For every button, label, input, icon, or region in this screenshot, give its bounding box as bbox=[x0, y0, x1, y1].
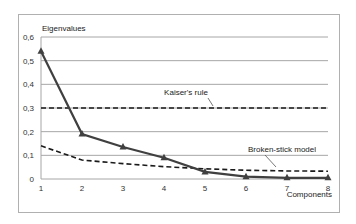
y-tick-label: 0 bbox=[30, 175, 35, 184]
broken-stick-annotation: Broken-stick model bbox=[248, 145, 316, 154]
x-tick-label: 5 bbox=[203, 184, 208, 193]
y-tick-label: 0,5 bbox=[23, 57, 35, 66]
y-tick-label: 0,4 bbox=[23, 80, 35, 89]
y-tick-label: 0,3 bbox=[23, 104, 35, 113]
y-axis-title: Eigenvalues bbox=[42, 24, 86, 33]
chart-frame bbox=[19, 15, 340, 213]
x-tick-label: 1 bbox=[39, 184, 44, 193]
y-tick-label: 0,2 bbox=[23, 128, 35, 137]
x-tick-label: 6 bbox=[244, 184, 249, 193]
x-tick-label: 2 bbox=[80, 184, 85, 193]
eigenvalue-chart: 00,10,20,30,40,50,6 12345678 Eigenvalues… bbox=[0, 0, 356, 224]
x-tick-label: 3 bbox=[121, 184, 126, 193]
x-axis-title: Components bbox=[287, 190, 332, 199]
y-tick-label: 0,1 bbox=[23, 151, 35, 160]
kaiser-rule-annotation: Kaiser's rule bbox=[164, 88, 208, 97]
y-tick-label: 0,6 bbox=[23, 33, 35, 42]
x-tick-label: 4 bbox=[162, 184, 167, 193]
